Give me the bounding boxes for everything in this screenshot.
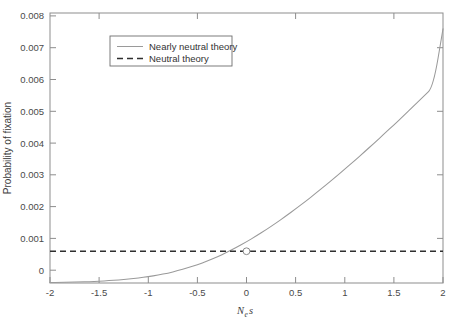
y-tick-label: 0.004 [20, 138, 44, 149]
x-tick-label: 1.5 [387, 287, 400, 298]
intersection-marker [243, 248, 250, 255]
legend-label-neutral: Neutral theory [149, 53, 209, 64]
x-axis-title: N e s [236, 305, 253, 319]
y-tick-label: 0.006 [20, 74, 44, 85]
x-tick-label: -1.5 [91, 287, 107, 298]
y-tick-label: 0.003 [20, 169, 44, 180]
x-tick-label: 2 [440, 287, 445, 298]
x-tick-marks-top [99, 13, 394, 19]
y-tick-label: 0.002 [20, 201, 44, 212]
y-tick-label: 0.001 [20, 233, 44, 244]
plot-frame [50, 13, 443, 283]
y-tick-label: 0 [39, 265, 44, 276]
x-axis-title-tail: s [249, 305, 253, 316]
y-tick-label: 0.005 [20, 106, 44, 117]
x-tick-label: 0.5 [289, 287, 302, 298]
x-tick-label: -0.5 [189, 287, 205, 298]
y-axis-title: Probability of fixation [2, 102, 13, 194]
y-tick-label: 0.008 [20, 10, 44, 21]
x-tick-label: -1 [144, 287, 152, 298]
x-tick-label: 1 [342, 287, 347, 298]
x-tick-label: -2 [46, 287, 54, 298]
x-tick-marks [50, 277, 443, 283]
y-tick-label: 0.007 [20, 42, 44, 53]
figure-container: -2 -1.5 -1 -0.5 0 0.5 1 1.5 2 0 0.001 0.… [0, 0, 462, 328]
y-tick-marks-right [437, 48, 443, 239]
x-axis-title-sub: e [245, 310, 249, 319]
y-tick-marks [50, 16, 56, 270]
series-nearly-neutral-theory [50, 29, 443, 283]
legend: Nearly neutral theory Neutral theory [110, 36, 237, 66]
chart-canvas: -2 -1.5 -1 -0.5 0 0.5 1 1.5 2 0 0.001 0.… [0, 0, 462, 328]
x-tick-label: 0 [244, 287, 249, 298]
legend-label-nearly-neutral: Nearly neutral theory [149, 41, 237, 52]
